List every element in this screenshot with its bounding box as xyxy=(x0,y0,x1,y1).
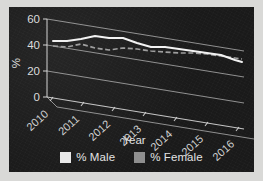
x-tick-label-2014: 2014 xyxy=(148,128,174,153)
legend-entry-female[interactable]: % Female xyxy=(134,151,203,163)
x-tick-label-2011: 2011 xyxy=(56,113,82,138)
gridline-20 xyxy=(47,71,244,103)
series-line-male xyxy=(53,36,242,62)
chart-figure: 60 40 20 0 % 2010 2011 2012 xyxy=(0,0,263,181)
x-tick-label-2010: 2010 xyxy=(24,108,50,133)
line-chart-plot: 60 40 20 0 % 2010 2011 2012 xyxy=(9,7,254,172)
chart-legend: % Male % Female xyxy=(9,151,254,163)
y-tick-label-40: 40 xyxy=(27,39,40,51)
x-tick-label-2012: 2012 xyxy=(86,118,112,143)
legend-label-male: % Male xyxy=(76,151,115,163)
y-tick-label-60: 60 xyxy=(27,13,40,25)
legend-label-female: % Female xyxy=(150,151,203,163)
y-tick-label-20: 20 xyxy=(27,65,40,77)
legend-swatch-female-icon xyxy=(134,152,145,163)
y-axis-ticks xyxy=(43,19,47,97)
x-axis-title: Year xyxy=(122,134,145,146)
legend-entry-male[interactable]: % Male xyxy=(60,151,115,163)
y-tick-label-0: 0 xyxy=(34,91,40,103)
legend-swatch-male-icon xyxy=(60,152,71,163)
y-axis-title: % xyxy=(10,58,22,68)
chart-panel: 60 40 20 0 % 2010 2011 2012 xyxy=(9,7,254,172)
